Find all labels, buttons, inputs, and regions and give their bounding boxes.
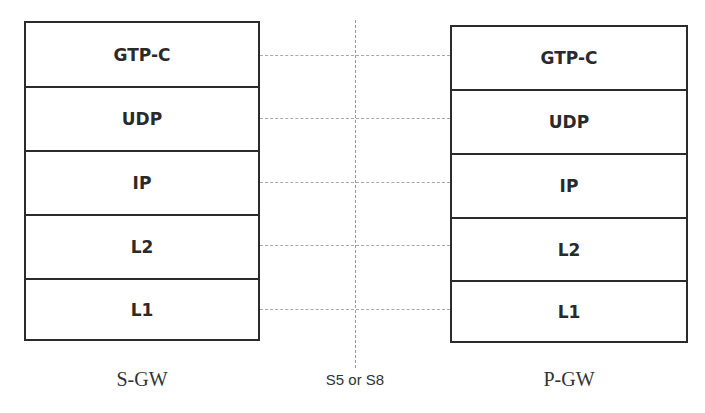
pgw-layer-l1: L1 xyxy=(452,280,686,341)
pgw-protocol-stack: GTP-C UDP IP L2 L1 xyxy=(450,25,688,343)
layer-label: UDP xyxy=(122,109,162,129)
sgw-layer-l1: L1 xyxy=(26,278,258,339)
layer-label: UDP xyxy=(549,112,589,132)
pgw-layer-gtp-c: GTP-C xyxy=(452,27,686,89)
layer-label: IP xyxy=(560,176,579,196)
pgw-layer-ip: IP xyxy=(452,153,686,217)
layer-label: GTP-C xyxy=(114,45,171,65)
layer-label: IP xyxy=(133,173,152,193)
sgw-layer-ip: IP xyxy=(26,150,258,214)
layer-label: L1 xyxy=(558,302,581,322)
pgw-label: P-GW xyxy=(450,368,688,391)
interface-divider-line xyxy=(355,20,356,368)
sgw-protocol-stack: GTP-C UDP IP L2 L1 xyxy=(24,21,260,341)
interface-label: S5 or S8 xyxy=(300,371,410,388)
sgw-layer-gtp-c: GTP-C xyxy=(26,23,258,86)
layer-label: L1 xyxy=(131,300,154,320)
sgw-label: S-GW xyxy=(24,368,260,391)
pgw-layer-udp: UDP xyxy=(452,89,686,153)
sgw-layer-udp: UDP xyxy=(26,86,258,150)
layer-label: L2 xyxy=(131,237,154,257)
layer-label: L2 xyxy=(558,240,581,260)
layer-label: GTP-C xyxy=(541,48,598,68)
sgw-layer-l2: L2 xyxy=(26,214,258,278)
pgw-layer-l2: L2 xyxy=(452,217,686,280)
